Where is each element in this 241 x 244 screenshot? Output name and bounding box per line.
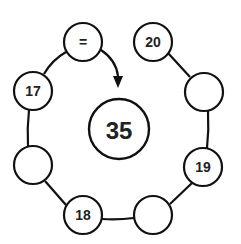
node-label: 18: [75, 207, 91, 223]
ring-node-top-left[interactable]: =: [64, 23, 102, 61]
connector-bottom-right-to-18: [102, 218, 134, 219]
connector-20-to-right-upper: [168, 53, 190, 77]
connector-19-to-bottom-right: [170, 183, 192, 204]
connector-left-lower-to-17: [28, 110, 29, 146]
connector-right-upper-to-19: [207, 111, 208, 148]
ring-node-bottom-left[interactable]: 18: [64, 196, 102, 234]
center-value: 35: [106, 117, 133, 144]
ring-node-right-lower[interactable]: 19: [184, 148, 222, 186]
connector-18-to-left-lower: [45, 181, 66, 205]
ring-node-left-lower[interactable]: [14, 146, 52, 184]
number-ring-puzzle: 35 = 20 19 18 17: [0, 0, 241, 244]
arrow: [101, 50, 123, 88]
node-label: 17: [25, 83, 41, 99]
center-node: 35: [89, 99, 149, 159]
node-label: 20: [145, 34, 161, 50]
ring-node-bottom-right[interactable]: [134, 196, 172, 234]
arrowhead-icon: [113, 76, 123, 88]
node-label: =: [79, 34, 87, 50]
ring-node-left-upper[interactable]: 17: [14, 72, 52, 110]
connector-top-left-to-17: [44, 52, 66, 74]
node-label: 19: [195, 159, 211, 175]
arrow-curve: [101, 50, 118, 76]
ring-node-right-upper[interactable]: [185, 73, 223, 111]
ring-node-top-right[interactable]: 20: [134, 23, 172, 61]
